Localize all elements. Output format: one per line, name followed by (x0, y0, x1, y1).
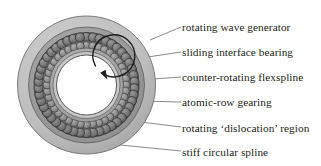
label-sliding-interface-bearing: sliding interface bearing (182, 47, 293, 58)
bearing-ball (75, 33, 84, 42)
label-rotating-wave-generator: rotating wave generator (182, 22, 290, 33)
label-atomic-row-gearing: atomic-row gearing (182, 97, 272, 108)
label-rotating-dislocation-region: rotating ‘dislocation’ region (182, 123, 309, 134)
diagram-stage: rotating wave generator sliding interfac… (0, 0, 321, 166)
label-counter-rotating-flexspline: counter-rotating flexspline (182, 72, 303, 83)
ring-stack (18, 16, 156, 154)
leader-rotating-wave-generator (150, 27, 181, 40)
ring-rotating-wave-generator-core (57, 55, 117, 115)
label-stiff-circular-spline: stiff circular spline (182, 147, 268, 158)
